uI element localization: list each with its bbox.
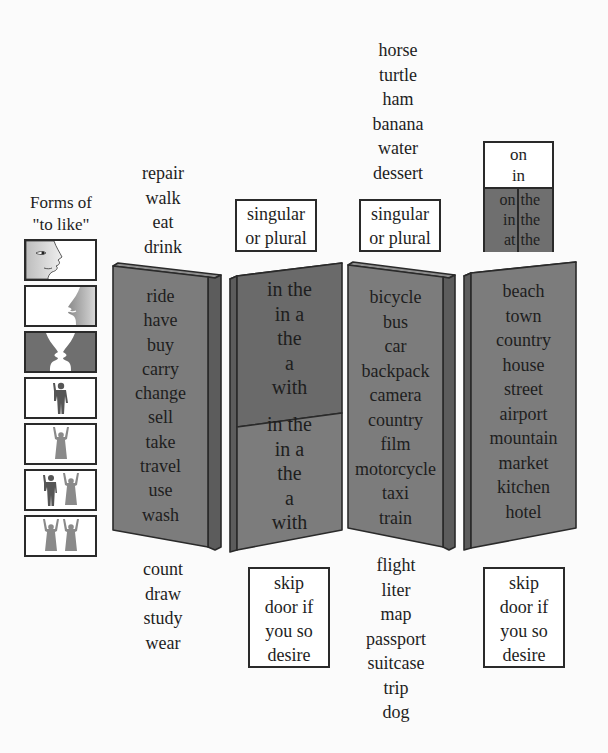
list-item[interactable]: bicycle [348, 285, 443, 310]
list-item[interactable]: town [471, 304, 576, 329]
list-item[interactable]: wash [113, 503, 208, 527]
list-item: count [113, 557, 213, 582]
list-item: map [346, 602, 446, 627]
places-panel-list: beach town country house street airport … [471, 279, 576, 524]
list-item[interactable]: in the [237, 277, 342, 302]
list-item[interactable]: beach [471, 279, 576, 304]
list-item[interactable]: travel [113, 454, 208, 478]
list-item: dog [346, 700, 446, 725]
articles-panel-bottom-list: in the in a the a with [237, 412, 342, 535]
list-item[interactable]: hotel [471, 500, 576, 525]
list-item[interactable]: motorcycle [348, 457, 443, 482]
list-item[interactable]: carry [113, 357, 208, 381]
list-item[interactable]: camera [348, 383, 443, 408]
list-item[interactable]: country [471, 328, 576, 353]
list-item[interactable]: sell [113, 405, 208, 429]
list-item[interactable]: house [471, 353, 576, 378]
list-item[interactable]: change [113, 381, 208, 405]
list-item[interactable]: take [113, 430, 208, 454]
list-item[interactable]: bus [348, 310, 443, 335]
list-item[interactable]: a [237, 486, 342, 511]
articles-skip-label: skip door if you so desire [248, 567, 330, 668]
list-item[interactable]: taxi [348, 481, 443, 506]
list-item[interactable]: car [348, 334, 443, 359]
list-item[interactable]: mountain [471, 426, 576, 451]
places-skip-label: skip door if you so desire [483, 567, 565, 668]
list-item[interactable]: ride [113, 284, 208, 308]
list-item[interactable]: a [237, 351, 342, 376]
list-item[interactable]: buy [113, 333, 208, 357]
list-item[interactable]: have [113, 308, 208, 332]
list-item: wear [113, 631, 213, 656]
list-item: liter [346, 578, 446, 603]
list-item: draw [113, 582, 213, 607]
nouns-below-list: flight liter map passport suitcase trip … [346, 553, 446, 725]
list-item[interactable]: country [348, 408, 443, 433]
list-item[interactable]: market [471, 451, 576, 476]
list-item[interactable]: train [348, 506, 443, 531]
list-item[interactable]: use [113, 478, 208, 502]
list-item: trip [346, 676, 446, 701]
list-item[interactable]: with [237, 375, 342, 400]
list-item: flight [346, 553, 446, 578]
list-item[interactable]: airport [471, 402, 576, 427]
verbs-panel-list: ride have buy carry change sell take tra… [113, 284, 208, 527]
list-item[interactable]: the [237, 326, 342, 351]
verbs-below-list: count draw study wear [113, 557, 213, 655]
list-item[interactable]: film [348, 432, 443, 457]
nouns-panel-list: bicycle bus car backpack camera country … [348, 285, 443, 530]
list-item: suitcase [346, 651, 446, 676]
list-item[interactable]: kitchen [471, 475, 576, 500]
list-item[interactable]: in a [237, 437, 342, 462]
articles-panel-top-list: in the in a the a with [237, 277, 342, 400]
list-item[interactable]: backpack [348, 359, 443, 384]
list-item[interactable]: in the [237, 412, 342, 437]
list-item[interactable]: with [237, 510, 342, 535]
list-item[interactable]: the [237, 461, 342, 486]
list-item: passport [346, 627, 446, 652]
list-item: study [113, 606, 213, 631]
list-item[interactable]: street [471, 377, 576, 402]
list-item[interactable]: in a [237, 302, 342, 327]
